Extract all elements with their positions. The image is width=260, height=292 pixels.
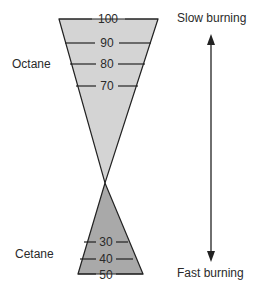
cetane-tick-30: 30: [99, 236, 112, 248]
cetane-tick-50: 50: [99, 269, 112, 281]
burning-speed-arrow: [207, 34, 215, 262]
octane-label: Octane: [12, 57, 51, 71]
arrow-down-head-icon: [207, 251, 215, 262]
octane-tick-90: 90: [100, 37, 113, 49]
arrow-up-head-icon: [207, 34, 215, 45]
fast-burning-label: Fast burning: [177, 266, 244, 280]
octane-tick-80: 80: [100, 58, 113, 70]
cetane-label: Cetane: [15, 247, 54, 261]
slow-burning-label: Slow burning: [177, 11, 246, 25]
octane-tick-100: 100: [98, 13, 118, 25]
cetane-tick-40: 40: [99, 253, 112, 265]
octane-tick-70: 70: [100, 80, 113, 92]
